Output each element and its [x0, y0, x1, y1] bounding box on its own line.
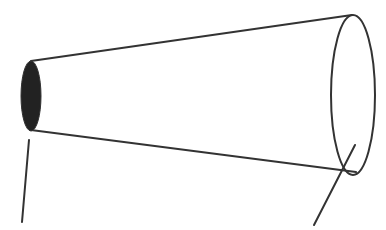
small-end-cross-section — [21, 61, 41, 131]
leader-line-small-end — [22, 140, 29, 222]
leader-line-large-end — [314, 145, 355, 225]
frustum-diagram — [0, 0, 386, 230]
bottom-edge-line — [31, 130, 356, 172]
top-edge-line — [31, 15, 352, 61]
